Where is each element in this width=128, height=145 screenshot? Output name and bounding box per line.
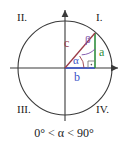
- angle-alpha-arc: [80, 56, 84, 68]
- side-label-c: c: [64, 37, 69, 49]
- side-label-b: b: [74, 71, 80, 83]
- quadrant-label-i: I.: [96, 12, 102, 23]
- quadrant-label-iii: III.: [17, 104, 31, 115]
- angle-beta-arc: [82, 49, 95, 55]
- figure-caption: 0° < α < 90°: [0, 127, 128, 139]
- quadrant-label-iv: IV.: [96, 104, 109, 115]
- angle-label-alpha: α: [73, 55, 79, 66]
- right-angle-dot-icon: [91, 64, 93, 66]
- quadrant-label-ii: II.: [17, 12, 27, 23]
- side-label-a: a: [99, 46, 104, 58]
- y-axis-arrow-icon: [62, 10, 69, 17]
- unit-circle-diagram: II. I. III. IV. c a b α β 0° < α < 90°: [0, 0, 128, 145]
- angle-label-beta: β: [85, 34, 91, 45]
- x-axis-arrow-icon: [111, 65, 118, 72]
